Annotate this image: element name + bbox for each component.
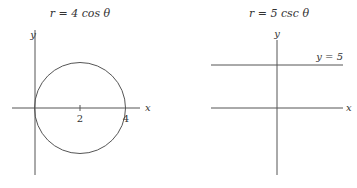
left-plot-title: r = 4 cos θ <box>50 7 111 20</box>
line-label: y = 5 <box>315 51 343 62</box>
tick-label-2: 2 <box>77 113 83 124</box>
tick-label-4: 4 <box>123 113 129 124</box>
left-x-label: x <box>145 102 151 113</box>
right-x-label: x <box>346 102 352 113</box>
left-plot: r = 4 cos θ 2 4 x y <box>12 7 151 175</box>
left-y-label: y <box>29 29 36 40</box>
right-y-label: y <box>273 28 280 39</box>
polar-graphs-diagram: r = 4 cos θ 2 4 x y r = 5 csc θ y = 5 x … <box>0 0 357 188</box>
right-plot-title: r = 5 csc θ <box>249 7 309 20</box>
right-plot: r = 5 csc θ y = 5 x y <box>211 7 352 175</box>
